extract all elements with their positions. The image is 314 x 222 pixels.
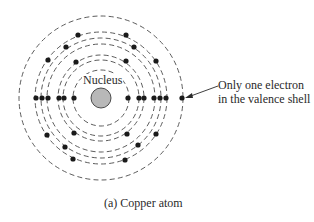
electron <box>179 95 184 100</box>
electron <box>63 44 68 49</box>
electron <box>141 95 146 100</box>
electron <box>125 95 130 100</box>
electron <box>124 131 129 136</box>
electron <box>71 95 76 100</box>
electron <box>71 130 76 135</box>
electron <box>151 95 156 100</box>
electron <box>75 32 80 37</box>
annotation-line-2: in the valence shell <box>218 92 310 106</box>
copper-atom-diagram <box>0 0 314 222</box>
nucleus-circle <box>91 88 111 108</box>
nucleus-label: Nucleus <box>82 74 123 87</box>
electron <box>123 58 128 63</box>
electron <box>131 44 136 49</box>
figure-caption: (a) Copper atom <box>104 196 183 210</box>
electron <box>122 157 127 162</box>
electron <box>136 95 141 100</box>
valence-arrow <box>185 86 218 98</box>
annotation-line-1: Only one electron <box>218 78 310 92</box>
electron <box>45 57 50 62</box>
electron <box>153 131 158 136</box>
electron <box>123 32 128 37</box>
electron <box>45 95 50 100</box>
electron <box>62 144 67 149</box>
electron <box>163 95 168 100</box>
electron <box>135 142 140 147</box>
electron <box>153 58 158 63</box>
electron <box>56 95 61 100</box>
electron <box>61 95 66 100</box>
electron <box>44 132 49 137</box>
electron <box>73 59 78 64</box>
electron <box>157 95 162 100</box>
electron <box>70 156 75 161</box>
electron <box>39 95 44 100</box>
valence-annotation: Only one electron in the valence shell <box>218 78 310 106</box>
electron <box>33 95 38 100</box>
